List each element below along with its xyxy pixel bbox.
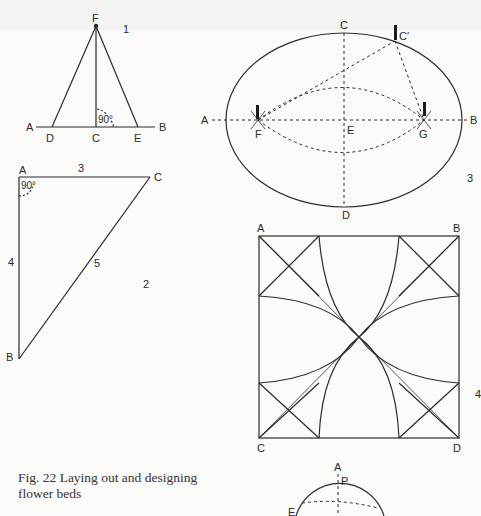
figure-caption: Fig. 22 Laying out and designing flower … [18, 470, 258, 502]
d2-label-C: C [154, 171, 162, 183]
d4-label-D: D [453, 442, 461, 454]
d2-number: 2 [143, 278, 149, 290]
d4-number: 4 [475, 388, 481, 400]
d3-label-C: C [340, 19, 348, 31]
d3-label-E: E [347, 124, 354, 136]
d3-label-G: G [419, 128, 428, 140]
d2-angle: 90° [21, 180, 36, 191]
d1-number: 1 [123, 23, 129, 35]
diagram-3-ellipse [212, 33, 468, 207]
figure-canvas: F 1 A D C E B 90° A 3 C 90° 4 5 2 B [0, 0, 481, 516]
diagram-2-right-triangle [19, 177, 150, 359]
d3-label-C-prime: C′ [399, 30, 409, 42]
d5-label-E: E [288, 506, 295, 516]
d1-label-D: D [46, 132, 54, 144]
caption-line-1: Fig. 22 Laying out and designing [18, 470, 258, 486]
d2-label-A: A [19, 164, 27, 176]
d1-label-C: C [92, 132, 100, 144]
d1-angle: 90° [98, 114, 113, 125]
caption-line-2: flower beds [18, 486, 258, 502]
d2-side-AC: 3 [78, 162, 84, 174]
d3-label-D: D [342, 209, 350, 221]
d3-label-F: F [255, 128, 262, 140]
d4-label-B: B [453, 222, 460, 234]
d4-label-A: A [257, 222, 265, 234]
d3-label-A: A [201, 114, 209, 126]
d1-label-E: E [134, 132, 141, 144]
diagram-5-circle [296, 474, 384, 516]
d5-label-A: A [334, 461, 342, 473]
d1-label-F: F [92, 12, 99, 24]
d3-number: 3 [467, 172, 473, 184]
d2-side-AB: 4 [8, 256, 14, 268]
d5-label-P: P [341, 475, 348, 487]
d3-label-B: B [470, 114, 477, 126]
d1-label-A: A [26, 121, 34, 133]
d4-label-C: C [257, 442, 265, 454]
d2-side-BC: 5 [94, 257, 100, 269]
diagram-4-square-pattern [259, 236, 459, 438]
diagram-1-isosceles-triangle [36, 24, 155, 127]
d1-label-B: B [159, 121, 166, 133]
d2-label-B: B [6, 351, 13, 363]
